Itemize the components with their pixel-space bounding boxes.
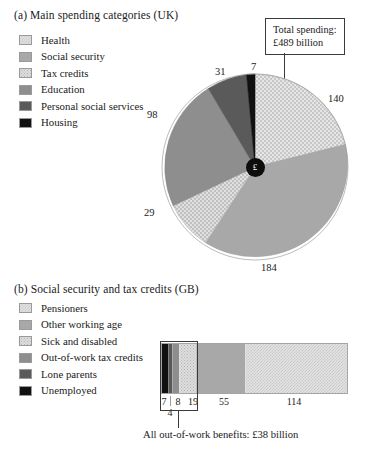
bar-value-lone-parents: 4 bbox=[164, 407, 176, 418]
bar-value-sick-and-disabled: 19 bbox=[185, 396, 201, 407]
bar-segment-pensioners bbox=[245, 344, 347, 393]
bar-value-out-of-work-tax-credits: 8 bbox=[172, 396, 184, 407]
bar-value-pensioners: 114 bbox=[280, 396, 308, 407]
bar-value-unemployed: 7 bbox=[158, 396, 170, 407]
out-of-work-benefits-caption: All out-of-work benefits: £38 billion bbox=[143, 429, 298, 440]
stacked-bar-chart: 7 4 8 19 55 114 All out-of-work benefits… bbox=[0, 0, 387, 459]
bar-segment-out-of-work-tax-credits bbox=[172, 344, 179, 393]
stacked-bar bbox=[161, 343, 348, 394]
bar-segment-other-working-age bbox=[196, 344, 245, 393]
out-of-work-benefits-stem bbox=[178, 411, 179, 428]
bar-label-divider-1 bbox=[170, 396, 171, 406]
bar-value-other-working-age: 55 bbox=[212, 396, 236, 407]
bar-segment-sick-and-disabled bbox=[179, 344, 196, 393]
